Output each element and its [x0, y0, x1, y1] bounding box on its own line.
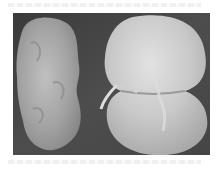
faint-caption-bottom: [8, 160, 201, 164]
left-specimen: [16, 17, 80, 150]
specimen-photo: [13, 13, 210, 155]
specimen-illustration: [13, 13, 210, 155]
faint-caption-top: [8, 3, 201, 7]
